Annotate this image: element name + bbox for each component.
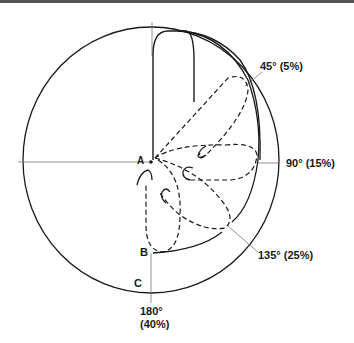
label-angle-45: 45° (5%) (260, 60, 303, 72)
label-angle-90: 90° (15%) (286, 157, 335, 169)
hook-45 (198, 146, 206, 158)
point-a-dot (149, 160, 153, 164)
label-point-a: A (137, 155, 144, 166)
label-point-b: B (140, 246, 148, 258)
angle-diagram: A B C 45° (5%) 90° (15%) 135° (25%) 180°… (0, 0, 354, 343)
label-angle-135: 135° (25%) (258, 249, 313, 261)
label-point-c: C (134, 277, 142, 289)
label-angle-180-line2: (40%) (140, 318, 170, 330)
hook-90 (183, 167, 193, 180)
label-angle-180-line1: 180° (140, 305, 163, 317)
solid-path-bottom-arc (153, 232, 222, 253)
hook-180 (137, 170, 152, 185)
dashed-loop-90 (155, 144, 257, 180)
dashed-loop-135 (155, 158, 230, 229)
solid-path-0deg (153, 31, 194, 160)
